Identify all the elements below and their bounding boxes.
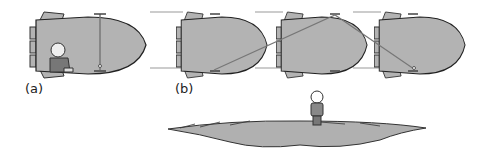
rocket-b1 bbox=[150, 12, 267, 78]
standing-observer bbox=[311, 91, 323, 125]
rocket-b2 bbox=[255, 12, 367, 78]
label-a: (a) bbox=[25, 81, 43, 96]
ground bbox=[168, 121, 426, 147]
rocket-b3 bbox=[353, 12, 465, 78]
diagram bbox=[0, 0, 488, 156]
rocket-a bbox=[30, 12, 146, 78]
label-b: (b) bbox=[175, 81, 193, 96]
